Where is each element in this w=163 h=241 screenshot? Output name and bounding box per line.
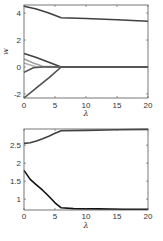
series-line-w5: [24, 67, 148, 72]
y-tick-label: 2: [17, 159, 22, 168]
y-tick-label: -2: [14, 90, 22, 99]
x-tick-label: 10: [82, 212, 91, 221]
x-tick-label: 0: [22, 212, 27, 221]
x-tick-label: 0: [22, 101, 27, 110]
y-axis-label: w: [1, 48, 10, 55]
plot-bottom: 0510152011.522.5λ: [10, 129, 153, 230]
series-line-lower: [24, 170, 148, 209]
x-tick-label: 15: [113, 212, 122, 221]
x-axis-label: λ: [82, 221, 88, 230]
chart-figure: 05101520-2024λw0510152011.522.5λ: [0, 0, 163, 241]
series-line-upper: [24, 129, 148, 143]
y-tick-label: 2: [17, 36, 22, 45]
series-line-w1: [24, 6, 148, 21]
x-tick-label: 5: [53, 101, 58, 110]
x-tick-label: 15: [113, 101, 122, 110]
x-tick-label: 5: [53, 212, 58, 221]
y-tick-label: 4: [17, 9, 22, 18]
y-tick-label: 1: [17, 195, 22, 204]
y-tick-label: 1.5: [10, 177, 22, 186]
series-line-w6: [24, 67, 148, 98]
y-tick-label: 0: [17, 63, 22, 72]
x-axis-label: λ: [82, 109, 88, 118]
x-tick-label: 20: [144, 101, 153, 110]
series-line-w2: [24, 54, 148, 68]
plot-top: 05101520-2024λw: [1, 5, 153, 118]
plot-frame: [24, 129, 148, 210]
x-tick-label: 20: [144, 212, 153, 221]
y-tick-label: 2.5: [10, 141, 22, 150]
